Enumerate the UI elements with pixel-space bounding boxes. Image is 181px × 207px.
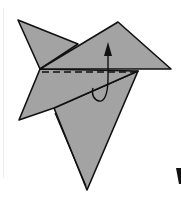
origami-diagram <box>0 0 181 207</box>
partial-v-glyph <box>176 168 181 184</box>
